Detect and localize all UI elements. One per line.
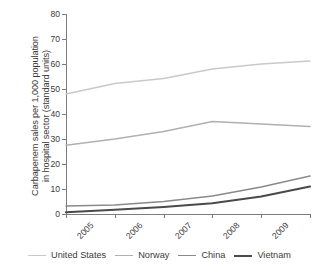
- legend-item[interactable]: Norway: [115, 250, 169, 261]
- y-axis-tick-label: 10: [50, 185, 60, 194]
- legend-swatch: [115, 255, 133, 256]
- y-axis-tick-label: 0: [55, 210, 60, 219]
- series-line: [66, 122, 310, 146]
- legend-item[interactable]: United States: [28, 250, 106, 261]
- x-axis-tick-mark: [212, 214, 213, 218]
- y-axis-tick-label: 30: [50, 135, 60, 144]
- legend-item[interactable]: China: [178, 250, 225, 261]
- x-axis-tick-mark: [115, 214, 116, 218]
- y-axis-tick-label: 40: [50, 110, 60, 119]
- y-axis-title-line-1: Carbapenem sales per 1,000 population: [30, 36, 40, 196]
- y-axis-title: Carbapenem sales per 1,000 population in…: [0, 0, 34, 232]
- y-axis-tick-label: 20: [50, 160, 60, 169]
- x-axis-tick-label: 2009: [271, 221, 291, 241]
- legend-item[interactable]: Vietnam: [234, 250, 291, 261]
- chart-legend: United StatesNorwayChinaVietnam: [0, 250, 319, 261]
- legend-label: Norway: [138, 250, 169, 261]
- x-axis-tick-label: 2007: [173, 221, 193, 241]
- plot-area: 01020304050607080 2005200620072008200920…: [66, 14, 311, 214]
- x-axis-tick-mark: [310, 214, 311, 218]
- legend-label: Vietnam: [257, 250, 291, 261]
- series-lines: [66, 14, 311, 214]
- series-line: [66, 176, 310, 206]
- y-axis-title-text: Carbapenem sales per 1,000 population in…: [30, 2, 53, 230]
- legend-swatch: [178, 255, 196, 256]
- legend-swatch: [28, 255, 46, 256]
- y-axis-tick-label: 60: [50, 60, 60, 69]
- x-axis-tick-mark: [261, 214, 262, 218]
- y-axis-tick-label: 70: [50, 35, 60, 44]
- y-axis-tick-label: 50: [50, 85, 60, 94]
- x-axis-tick-label: 2006: [124, 221, 144, 241]
- x-axis-line: [66, 214, 311, 215]
- legend-label: United States: [51, 250, 106, 261]
- x-axis-tick-label: 2008: [222, 221, 242, 241]
- series-line: [66, 61, 310, 94]
- x-axis-tick-mark: [66, 214, 67, 218]
- y-axis-tick-label: 80: [50, 10, 60, 19]
- legend-label: China: [201, 250, 225, 261]
- chart-figure: Carbapenem sales per 1,000 population in…: [0, 0, 319, 269]
- x-axis-tick-label: 2005: [76, 221, 96, 241]
- x-axis-tick-mark: [164, 214, 165, 218]
- legend-swatch: [234, 255, 252, 257]
